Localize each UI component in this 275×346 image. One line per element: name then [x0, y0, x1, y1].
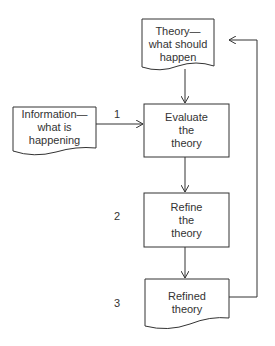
refine-line-3: theory — [144, 227, 229, 240]
information-node: Information— what is happening — [13, 108, 96, 147]
theory-line-2: what should — [142, 38, 214, 51]
refine-node: Refine the theory — [144, 201, 229, 240]
step-number-3: 3 — [114, 297, 120, 309]
evaluate-node: Evaluate the theory — [144, 111, 229, 150]
evaluate-line-1: Evaluate — [144, 111, 229, 124]
refined-node: Refined theory — [145, 290, 229, 316]
theory-line-3: happen — [142, 51, 214, 64]
refine-line-2: the — [144, 214, 229, 227]
refined-line-2: theory — [145, 303, 229, 316]
theory-line-1: Theory— — [142, 25, 214, 38]
theory-node: Theory— what should happen — [142, 25, 214, 64]
information-line-2: what is — [13, 121, 96, 134]
information-line-1: Information— — [13, 108, 96, 121]
evaluate-line-2: the — [144, 124, 229, 137]
information-line-3: happening — [13, 134, 96, 147]
refined-line-1: Refined — [145, 290, 229, 303]
evaluate-line-3: theory — [144, 137, 229, 150]
refine-line-1: Refine — [144, 201, 229, 214]
flowchart-lines — [0, 0, 275, 346]
step-number-1: 1 — [114, 108, 120, 120]
step-number-2: 2 — [114, 210, 120, 222]
